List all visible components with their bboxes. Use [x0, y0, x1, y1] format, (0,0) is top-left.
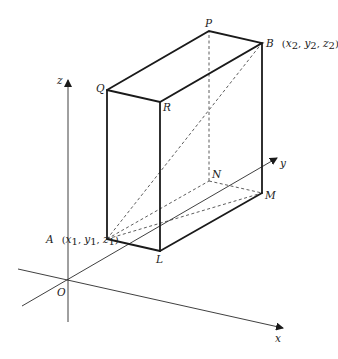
origin-label: O: [57, 286, 66, 298]
vertex-R-label: R: [162, 101, 171, 113]
vertex-N-label: N: [211, 168, 222, 180]
vertex-Q-label: Q: [96, 82, 105, 95]
z-axis-label: z: [56, 74, 63, 86]
edge-A-N: [107, 181, 209, 239]
hidden-edges: [107, 31, 262, 239]
vertex-B-label: B (x2, y2, z2): [265, 32, 338, 51]
vertex-M-label: M: [264, 189, 276, 201]
y-axis: [22, 158, 277, 306]
edge-N-M: [209, 181, 262, 193]
cuboid-diagram: z x y O Q R P L M N B (x2, y2, z2) A (x1…: [0, 0, 338, 359]
diagonal-A-M: [107, 193, 262, 239]
vertex-L-label: L: [155, 253, 163, 265]
top-face: [107, 31, 262, 102]
y-axis-label: y: [279, 157, 287, 169]
labels: z x y O Q R P L M N B (x2, y2, z2) A (x1…: [45, 17, 338, 344]
edge-L-M: [160, 193, 262, 251]
visible-edges: [107, 31, 262, 251]
x-axis: [18, 269, 283, 328]
vertex-P-label: P: [204, 17, 213, 29]
diagonal-A-B: [107, 43, 262, 239]
x-axis-label: x: [275, 332, 281, 344]
